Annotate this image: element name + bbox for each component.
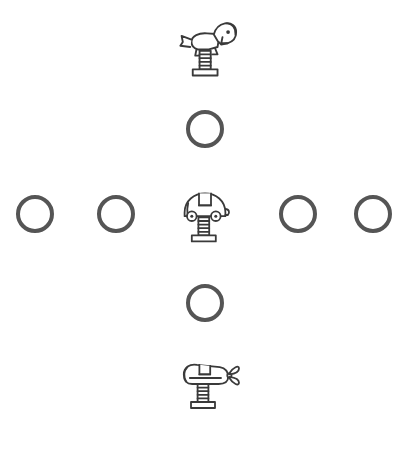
horse-spring-rider-icon[interactable] (172, 16, 242, 78)
circle-outline[interactable] (354, 195, 392, 233)
icon-grid-canvas (0, 0, 407, 451)
circle-outline[interactable] (186, 110, 224, 148)
car-spring-rider-icon[interactable] (174, 185, 236, 245)
circle-outline[interactable] (16, 195, 54, 233)
circle-outline[interactable] (279, 195, 317, 233)
circle-outline[interactable] (186, 284, 224, 322)
airplane-spring-rider-icon[interactable] (174, 354, 244, 414)
circle-outline[interactable] (97, 195, 135, 233)
